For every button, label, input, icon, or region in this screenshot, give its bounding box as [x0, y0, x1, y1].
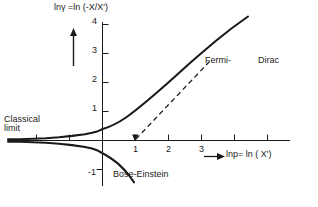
up-arrow-icon [70, 28, 77, 66]
curve-label-fermi: Fermi- [205, 56, 231, 65]
x-tick-label-3: 3 [199, 145, 204, 154]
x-tick-label-2: 2 [166, 145, 171, 154]
y-tick-label-3: 3 [92, 46, 97, 55]
y-tick-label-2: 2 [92, 75, 97, 84]
x-axis-title: lnp= ln ( X') [226, 150, 272, 159]
y-tick-label-4: 4 [92, 17, 97, 26]
figure-container: lnγ =ln (-X/X') lnp= ln ( X') 4 3 2 1 -1… [0, 0, 318, 207]
curve-fermi-dirac [8, 17, 248, 140]
right-arrow-icon [204, 153, 225, 160]
x-tick-label-1: 1 [133, 145, 138, 154]
y-tick-label-minus-1: -1 [88, 168, 96, 177]
classical-limit-line-2: limit [4, 124, 40, 133]
curve-label-classical-limit: Classical limit [4, 115, 40, 134]
y-tick-label-1: 1 [92, 104, 97, 113]
curve-label-bose-einstein: Bose-Einstein [113, 170, 169, 179]
curve-label-dirac: Dirac [258, 56, 279, 65]
y-axis-title: lnγ =ln (-X/X') [54, 3, 108, 12]
